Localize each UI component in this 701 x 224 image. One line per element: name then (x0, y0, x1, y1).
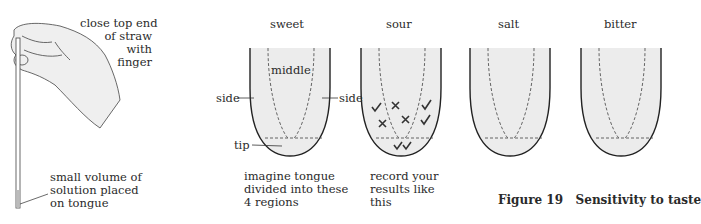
figure-number: Figure 19 (498, 193, 563, 207)
tongue-salt (470, 48, 550, 156)
note-sour: record your results like this (370, 170, 439, 209)
note-sweet: imagine tongue divided into these 4 regi… (244, 170, 348, 209)
tongue-bitter (581, 48, 661, 156)
taste-title-sour: sour (386, 18, 412, 31)
region-label-side-left: side (216, 92, 240, 105)
region-label-tip: tip (234, 139, 250, 152)
figure-title: Sensitivity to taste (576, 193, 701, 207)
taste-title-sweet: sweet (270, 18, 304, 31)
solution-label: small volume of solution placed on tongu… (50, 171, 142, 210)
region-label-side-right: side (339, 92, 363, 105)
straw-instruction-label: close top end of straw with finger (80, 17, 152, 69)
taste-title-bitter: bitter (604, 18, 637, 31)
taste-title-salt: salt (498, 18, 519, 31)
region-label-middle: middle (271, 64, 311, 77)
figure-caption: Figure 19 Sensitivity to taste (498, 193, 701, 207)
